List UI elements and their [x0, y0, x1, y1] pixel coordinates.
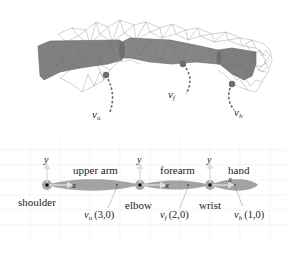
- label-shoulder: shoulder: [18, 196, 56, 208]
- label-hand: hand: [228, 164, 250, 176]
- label-elbow: elbow: [125, 199, 152, 211]
- point-label-vu: vu(3,0): [84, 209, 115, 222]
- x-axis-label-elbow: x: [164, 180, 169, 190]
- y-axis-label-shoulder: y: [43, 154, 49, 165]
- svg-text:vu: vu: [92, 108, 101, 122]
- marker-vf: vf: [168, 61, 190, 102]
- arm-mesh-3d: vu vf vh: [38, 20, 272, 122]
- y-axis-label-wrist: y: [206, 154, 212, 165]
- x-axis-label-shoulder: x: [71, 180, 76, 190]
- point-label-vh: vh(1,0): [234, 209, 265, 222]
- arm-diagram: vu vf vh: [0, 0, 287, 254]
- svg-text:vf: vf: [168, 88, 176, 102]
- point-label-vf: vf(2,0): [160, 209, 189, 222]
- segment-labels: upper arm forearm hand: [73, 164, 250, 176]
- label-wrist: wrist: [199, 199, 221, 211]
- marker-vu: vu: [92, 72, 113, 122]
- joint-labels: shoulder elbow wrist: [18, 196, 221, 211]
- point-labels: vu(3,0) vf(2,0) vh(1,0): [84, 209, 265, 222]
- label-forearm: forearm: [160, 164, 195, 176]
- svg-text:vh: vh: [234, 106, 243, 120]
- marker-vh: vh: [229, 81, 243, 120]
- label-upper-arm: upper arm: [73, 164, 118, 176]
- y-axis-label-elbow: y: [136, 154, 142, 165]
